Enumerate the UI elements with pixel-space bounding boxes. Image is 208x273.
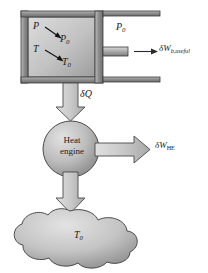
label-boundary-work: δWb,useful	[159, 43, 190, 54]
cylinder-top-wall	[21, 11, 103, 17]
heat-engine-label-line2: engine	[51, 146, 93, 157]
thermodynamics-diagram	[0, 0, 208, 273]
heat-reject-arrow	[56, 172, 85, 213]
label-temperature-final-sub: 0	[68, 61, 71, 68]
heat-engine-label-line1: Heat	[51, 135, 93, 146]
label-engine-work: δWHE	[155, 140, 175, 151]
engine-work-arrow	[95, 136, 150, 163]
label-ambient-pressure: P0	[116, 21, 126, 33]
label-engine-work-sub: HE	[167, 145, 175, 151]
piston-plate	[95, 11, 103, 83]
label-pressure-final: P0	[60, 33, 70, 45]
label-temperature-final: T0	[62, 56, 71, 68]
heat-reject-arrow-shape	[56, 172, 85, 213]
label-heat-transfer: δQ	[80, 88, 92, 99]
cylinder-left-wall	[21, 11, 28, 83]
heat-engine-label: Heat engine	[51, 135, 93, 157]
label-ambient-pressure-sub: 0	[122, 26, 125, 33]
piston-rod	[103, 47, 128, 56]
label-boundary-work-sub: b,useful	[171, 48, 190, 54]
cylinder-bottom-wall	[21, 77, 103, 83]
label-pressure-initial: P	[33, 20, 39, 31]
label-temperature-initial: T	[33, 43, 39, 54]
engine-work-arrow-shape	[95, 136, 150, 163]
guide-rails	[103, 11, 160, 82]
boundary-work-arrow-head	[151, 48, 158, 54]
label-pressure-final-sub: 0	[66, 38, 69, 45]
guide-rail-bottom	[103, 77, 160, 82]
guide-rail-top	[103, 11, 160, 16]
label-surroundings-temperature: T0	[74, 229, 83, 241]
piston-rod-group	[103, 47, 158, 56]
label-surroundings-temperature-sub: 0	[80, 234, 83, 241]
